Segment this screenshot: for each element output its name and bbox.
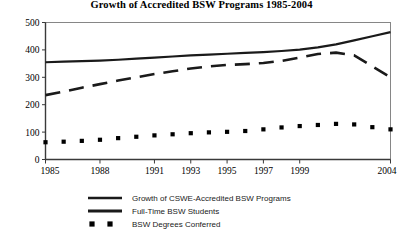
y-tick-label: 0 [35,155,40,165]
data-point-marker [80,139,84,143]
data-point-marker [298,124,302,128]
y-tick-label: 300 [25,73,40,83]
x-tick-label: 1991 [145,166,164,176]
x-tick-label: 1985 [41,166,60,176]
data-point-marker [189,131,193,135]
x-tick-label: 1999 [290,166,309,176]
y-tick-label: 500 [25,18,40,28]
series-line [46,32,391,62]
x-tick-label: 1997 [254,166,273,176]
chart-plot-area: 0100200300400500 19851988199119931995199… [0,0,403,231]
legend-label: BSW Degrees Conferred [132,220,220,229]
y-tick-label: 400 [25,45,40,55]
chart-legend: Growth of CSWE-Accredited BSW ProgramsFu… [88,194,291,229]
data-point-marker [261,127,265,131]
x-tick-label: 2004 [378,166,397,176]
x-tick-label: 1988 [90,166,109,176]
chart-figure: Growth of Accredited BSW Programs 1985-2… [0,0,403,231]
y-tick-label: 200 [25,100,40,110]
legend-swatch-square [107,221,112,226]
data-point-marker [43,140,47,144]
data-point-marker [152,133,156,137]
series-2 [46,53,391,95]
data-point-marker [316,123,320,127]
y-axis-ticks: 0100200300400500 [25,18,45,165]
data-point-marker [98,138,102,142]
data-point-marker [370,125,374,129]
x-tick-label: 1993 [181,166,200,176]
data-point-marker [207,130,211,134]
data-point-marker [279,125,283,129]
data-point-marker [243,129,247,133]
data-series-layer [43,32,392,144]
data-point-marker [225,130,229,134]
legend-label: Full-Time BSW Students [132,207,219,216]
legend-swatch-square [89,221,94,226]
data-point-marker [116,136,120,140]
legend-label: Growth of CSWE-Accredited BSW Programs [132,194,291,203]
data-point-marker [62,140,66,144]
data-point-marker [171,132,175,136]
x-axis-ticks: 19851988199119931995199719992004 [41,160,397,176]
x-tick-label: 1995 [218,166,237,176]
data-point-marker [388,127,392,131]
data-point-marker [352,122,356,126]
y-tick-label: 100 [25,128,40,138]
series-1 [46,32,391,62]
series-line [46,53,391,95]
series-3 [43,122,392,145]
data-point-marker [334,122,338,126]
data-point-marker [134,135,138,139]
